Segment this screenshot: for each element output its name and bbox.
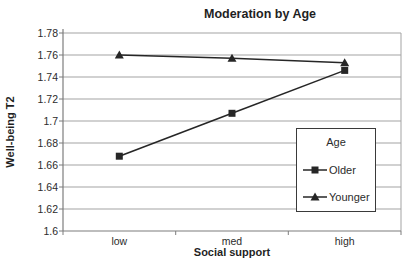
legend-label-older: Older (329, 164, 356, 176)
line-chart: Moderation by Age Well-being T2 1.781.76… (0, 0, 416, 276)
y-tick-label: 1.78 (28, 27, 58, 40)
square-marker-icon (303, 164, 327, 176)
y-tick-label: 1.62 (28, 203, 58, 216)
y-tick-label: 1.66 (28, 159, 58, 172)
y-tick-label: 1.72 (28, 93, 58, 106)
x-axis-label: Social support (194, 246, 270, 258)
legend-items: OlderYounger (303, 163, 370, 204)
y-tick-label: 1.68 (28, 137, 58, 150)
x-tick-label-high: high (315, 235, 375, 247)
legend-item-older: Older (303, 163, 370, 177)
x-tick-label-low: low (89, 235, 149, 247)
y-tick-label: 1.7 (28, 115, 58, 128)
y-tick-label: 1.6 (28, 225, 58, 238)
y-tick-label: 1.74 (28, 71, 58, 84)
y-tick-label: 1.64 (28, 181, 58, 194)
legend-item-younger: Younger (303, 190, 370, 204)
legend-box: Age OlderYounger (296, 128, 376, 212)
triangle-marker-icon (303, 191, 327, 203)
y-tick-label: 1.76 (28, 49, 58, 62)
legend-label-younger: Younger (329, 191, 370, 203)
legend-title: Age (297, 136, 375, 148)
